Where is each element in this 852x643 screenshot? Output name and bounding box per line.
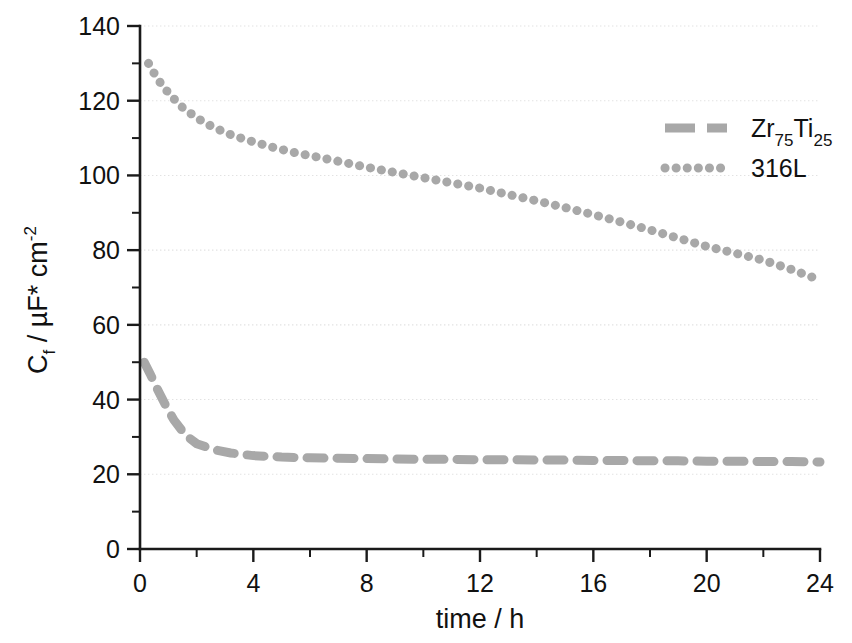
y-tick-label-100: 100 [78,161,120,189]
legend-label-316L: 316L [751,154,807,182]
y-axis-title: Cf / µF* cm-2 [21,226,59,374]
y-tick-label-0: 0 [106,535,120,563]
x-tick-label-24: 24 [806,569,834,597]
y-tick-label-140: 140 [78,12,120,40]
y-tick-label-120: 120 [78,87,120,115]
legend-a: Zr [751,114,775,142]
y-axis-tick-labels: 020406080100120140 [78,12,120,563]
y-axis-title-text: Cf / µF* cm-2 [21,226,59,374]
axes-group [140,26,820,549]
y-tick-label-80: 80 [92,236,120,264]
y-title-mid: / µF* cm [23,241,53,350]
y-tick-label-20: 20 [92,460,120,488]
series-line-Zr75Ti25 [144,362,820,462]
x-tick-label-0: 0 [133,569,147,597]
y-tick-label-60: 60 [92,311,120,339]
x-tick-label-16: 16 [579,569,607,597]
x-axis-title-text: time / h [436,604,525,634]
x-tick-label-4: 4 [246,569,260,597]
y-title-c: C [23,354,53,374]
x-tick-label-12: 12 [466,569,494,597]
legend-label-Zr75Ti25: Zr75Ti25 [751,114,832,150]
x-axis-ticks [140,549,820,562]
data-series-group [144,63,820,462]
chart-figure: 020406080100120140 04812162024 Cf / µF* … [0,0,852,643]
legend-b-sub: 25 [813,131,832,150]
x-axis-tick-labels: 04812162024 [133,569,834,597]
legend-b: Ti [794,114,814,142]
legend-a-sub: 75 [775,131,794,150]
x-tick-label-20: 20 [693,569,721,597]
y-tick-label-40: 40 [92,386,120,414]
x-tick-label-8: 8 [360,569,374,597]
y-axis-ticks [127,26,140,549]
chart-canvas: 020406080100120140 04812162024 Cf / µF* … [0,0,852,643]
legend: Zr75Ti25316L [665,114,832,182]
y-title-sup: -2 [21,226,40,241]
